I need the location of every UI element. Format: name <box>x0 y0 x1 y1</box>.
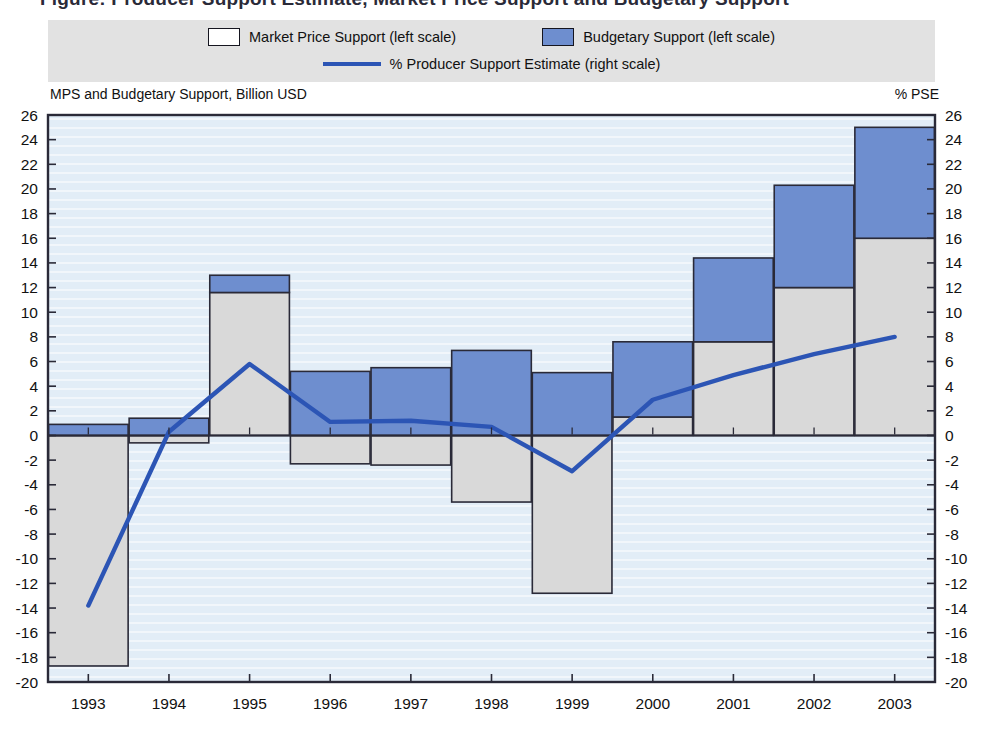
bar-segment-budgetary <box>371 368 451 436</box>
y-axis-tick-label-right: 14 <box>945 254 963 271</box>
chart-svg: 2626242422222020181816161414121210108866… <box>0 0 995 738</box>
y-axis-tick-label-right: -8 <box>945 526 959 543</box>
y-axis-tick-label-left: 20 <box>21 180 39 197</box>
y-axis-tick-label-right: 26 <box>945 107 962 124</box>
y-axis-tick-label-left: 12 <box>21 279 38 296</box>
bar-segment-budgetary <box>613 342 693 417</box>
y-axis-tick-label-right: -18 <box>945 649 967 666</box>
x-axis-tick-label: 2003 <box>877 695 911 712</box>
x-axis-tick-label: 1995 <box>232 695 266 712</box>
y-axis-tick-label-left: 14 <box>21 254 39 271</box>
bar-segment-budgetary <box>774 185 854 287</box>
bar-segment-mps <box>371 435 451 465</box>
x-axis-tick-label: 2000 <box>636 695 671 712</box>
y-axis-tick-label-left: 0 <box>29 427 38 444</box>
bar-segment-budgetary <box>855 127 935 238</box>
bar-group <box>532 373 612 594</box>
y-axis-tick-label-left: -2 <box>24 452 38 469</box>
y-axis-tick-label-left: 4 <box>29 378 38 395</box>
y-axis-tick-label-left: -6 <box>24 501 38 518</box>
y-axis-tick-label-left: 10 <box>21 304 39 321</box>
y-axis-tick-label-left: -16 <box>16 624 38 641</box>
y-axis-tick-label-right: -6 <box>945 501 959 518</box>
y-axis-tick-label-right: 0 <box>945 427 954 444</box>
bar-segment-mps <box>694 342 774 436</box>
x-axis-tick-label: 2001 <box>716 695 750 712</box>
y-axis-tick-label-left: -4 <box>24 476 38 493</box>
y-axis-tick-label-right: 6 <box>945 353 954 370</box>
y-axis-tick-label-right: 12 <box>945 279 962 296</box>
y-axis-tick-label-left: 2 <box>29 402 38 419</box>
x-axis-tick-label: 1993 <box>71 695 105 712</box>
y-axis-tick-label-right: 22 <box>945 156 962 173</box>
bar-group <box>290 371 370 463</box>
x-axis-tick-label: 1997 <box>394 695 428 712</box>
chart-plot-area: 2626242422222020181816161414121210108866… <box>0 0 995 738</box>
bar-segment-budgetary <box>532 373 612 436</box>
y-axis-tick-label-left: 26 <box>21 107 38 124</box>
bar-group <box>371 368 451 465</box>
bar-segment-budgetary <box>210 275 290 292</box>
y-axis-tick-label-right: 20 <box>945 180 963 197</box>
x-axis-tick-label: 1996 <box>313 695 347 712</box>
bar-group <box>613 342 693 436</box>
bar-segment-mps <box>290 435 370 463</box>
bar-segment-budgetary <box>694 258 774 342</box>
y-axis-tick-label-right: 18 <box>945 205 962 222</box>
y-axis-tick-label-right: 8 <box>945 328 954 345</box>
y-axis-tick-label-right: -16 <box>945 624 967 641</box>
y-axis-tick-label-left: 16 <box>21 230 38 247</box>
y-axis-tick-label-left: -18 <box>16 649 38 666</box>
y-axis-tick-label-left: 18 <box>21 205 38 222</box>
x-axis-tick-label: 2002 <box>797 695 831 712</box>
bar-segment-mps <box>452 435 532 502</box>
y-axis-tick-label-right: -2 <box>945 452 959 469</box>
y-axis-tick-label-left: -12 <box>16 575 38 592</box>
y-axis-tick-label-right: 4 <box>945 378 954 395</box>
y-axis-tick-label-left: 8 <box>29 328 38 345</box>
y-axis-tick-label-right: 16 <box>945 230 962 247</box>
y-axis-tick-label-right: 24 <box>945 131 963 148</box>
y-axis-tick-label-left: 6 <box>29 353 38 370</box>
x-axis-tick-label: 1994 <box>152 695 187 712</box>
y-axis-tick-label-left: 24 <box>21 131 39 148</box>
bar-group <box>694 258 774 435</box>
x-axis-tick-label: 1999 <box>555 695 589 712</box>
y-axis-tick-label-right: 2 <box>945 402 954 419</box>
y-axis-tick-label-left: -14 <box>16 600 39 617</box>
y-axis-tick-label-left: -8 <box>24 526 38 543</box>
y-axis-tick-label-left: -10 <box>16 550 39 567</box>
y-axis-tick-label-right: -20 <box>945 674 968 691</box>
bar-segment-mps <box>532 435 612 593</box>
y-axis-tick-label-right: -10 <box>945 550 968 567</box>
x-axis-tick-label: 1998 <box>474 695 508 712</box>
y-axis-tick-label-right: 10 <box>945 304 963 321</box>
y-axis-tick-label-left: 22 <box>21 156 38 173</box>
bar-group <box>855 127 935 435</box>
bar-group <box>774 185 854 435</box>
y-axis-tick-label-right: -12 <box>945 575 967 592</box>
y-axis-tick-label-right: -4 <box>945 476 959 493</box>
bar-group <box>210 275 290 435</box>
y-axis-tick-label-right: -14 <box>945 600 968 617</box>
y-axis-tick-label-left: -20 <box>16 674 39 691</box>
